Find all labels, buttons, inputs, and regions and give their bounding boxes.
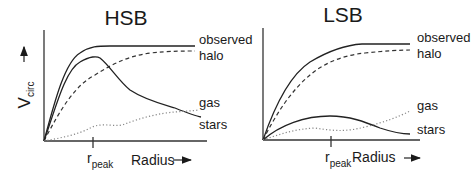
lsb-rpeak-label: rpeak [325,149,352,169]
rotation-curves-diagram: HSB Vcirc observed halo gas stars rpeak … [0,0,476,181]
lsb-stars-curve [263,116,410,140]
hsb-rpeak-label: rpeak [87,150,114,170]
lsb-label-stars: stars [417,122,446,137]
lsb-title: LSB [323,3,363,26]
svg-text:Vcirc: Vcirc [15,82,36,109]
hsb-x-axis-label: Radius [131,152,175,168]
hsb-label-stars: stars [199,117,228,132]
y-axis-label-main: V [15,96,34,108]
hsb-label-observed: observed [199,32,252,47]
lsb-x-axis-label: Radius [352,149,396,165]
hsb-observed-curve [44,46,195,141]
hsb-panel: HSB Vcirc observed halo gas stars rpeak … [15,6,252,170]
hsb-title: HSB [104,6,147,29]
hsb-label-halo: halo [199,48,224,63]
y-axis-label-sub: circ [25,82,36,98]
hsb-label-gas: gas [199,95,220,110]
hsb-gas-curve [44,110,198,141]
lsb-panel: LSB observed halo gas stars rpeak Radius [263,3,470,169]
lsb-label-halo: halo [417,46,442,61]
lsb-label-observed: observed [417,30,470,45]
lsb-label-gas: gas [417,98,438,113]
y-axis-label: Vcirc [15,82,36,109]
hsb-halo-curve [44,51,195,141]
